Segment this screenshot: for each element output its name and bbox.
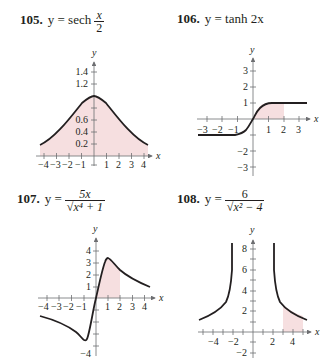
y-axis-label: y: [249, 44, 255, 55]
svg-text:3: 3: [129, 159, 134, 170]
x-axis-label: x: [158, 292, 164, 303]
svg-text:4: 4: [86, 245, 91, 256]
svg-text:2: 2: [116, 159, 121, 170]
y-axis-label: y: [91, 47, 97, 58]
svg-text:−2: −2: [228, 336, 239, 347]
x-tick-labels: −4−3−2−1 1234: [38, 159, 146, 170]
curve-right: [274, 243, 307, 320]
svg-text:1: 1: [105, 301, 110, 312]
svg-text:3: 3: [243, 65, 248, 76]
svg-text:3: 3: [296, 124, 301, 135]
svg-text:−2: −2: [63, 301, 74, 312]
svg-text:−4: −4: [208, 336, 219, 347]
svg-text:−2: −2: [62, 159, 73, 170]
svg-text:−1: −1: [76, 301, 87, 312]
svg-text:2: 2: [270, 336, 275, 347]
graph-105: −4−3−2−1 1234 0.20.40.6 1.21.4 x y: [36, 47, 161, 170]
svg-text:4: 4: [142, 301, 147, 312]
svg-text:4: 4: [141, 159, 146, 170]
svg-text:2: 2: [243, 81, 248, 92]
svg-text:1: 1: [104, 159, 109, 170]
graph-107: −4−3−2−1 1234 4321 −4 x y: [38, 223, 164, 359]
svg-text:−4: −4: [38, 159, 49, 170]
svg-text:8: 8: [242, 243, 247, 254]
svg-text:−4: −4: [80, 348, 91, 359]
svg-text:4: 4: [290, 336, 295, 347]
svg-text:6: 6: [242, 264, 247, 275]
x-tick-labels: −4−2 24: [208, 336, 295, 347]
svg-text:3: 3: [130, 301, 135, 312]
svg-text:0.6: 0.6: [76, 114, 89, 125]
svg-text:1: 1: [86, 281, 91, 292]
svg-text:−3: −3: [51, 301, 62, 312]
svg-text:2: 2: [117, 301, 122, 312]
svg-text:2: 2: [242, 305, 247, 316]
svg-text:1.4: 1.4: [76, 66, 89, 77]
curve-left: [199, 243, 232, 320]
svg-text:−2: −2: [212, 124, 223, 135]
svg-text:−4: −4: [38, 301, 49, 312]
svg-text:4: 4: [242, 285, 247, 296]
svg-text:−3: −3: [197, 124, 208, 135]
shaded-area: [96, 258, 120, 298]
svg-text:0.4: 0.4: [76, 126, 89, 137]
x-axis-label: x: [155, 150, 161, 161]
svg-text:1: 1: [243, 97, 248, 108]
svg-text:1: 1: [266, 124, 271, 135]
svg-text:3: 3: [86, 257, 91, 268]
svg-text:2: 2: [86, 269, 91, 280]
svg-text:−2: −2: [237, 146, 248, 157]
y-axis-label: y: [92, 223, 98, 234]
graph-106: −3−2−1 123 321 −2−3 x y: [197, 44, 319, 176]
svg-text:−3: −3: [50, 159, 61, 170]
x-axis-label: x: [314, 326, 320, 337]
svg-text:2: 2: [281, 124, 286, 135]
svg-text:−3: −3: [237, 162, 248, 173]
x-axis-label: x: [313, 113, 319, 124]
svg-text:1.2: 1.2: [76, 78, 89, 89]
plots-canvas: −4−3−2−1 1234 0.20.40.6 1.21.4 x y −3−2−…: [0, 0, 335, 362]
graph-108: −4−2 24 8642 −2 x y: [198, 224, 320, 358]
svg-text:−1: −1: [228, 124, 239, 135]
curve: [40, 258, 150, 340]
svg-text:−1: −1: [75, 159, 86, 170]
y-axis-label: y: [249, 224, 255, 235]
svg-text:0.2: 0.2: [76, 138, 89, 149]
svg-text:−2: −2: [236, 347, 247, 358]
